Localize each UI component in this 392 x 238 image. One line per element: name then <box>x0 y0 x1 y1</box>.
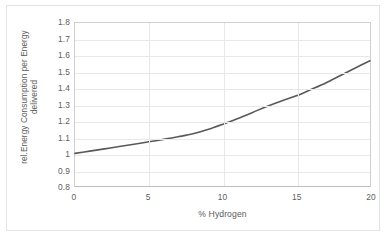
x-axis-tick-label: 5 <box>128 192 168 202</box>
gridline-horizontal <box>75 106 370 107</box>
gridline-vertical <box>224 23 225 186</box>
gridline-vertical <box>149 23 150 186</box>
x-axis-tick-labels: 05101520 <box>74 192 371 206</box>
y-axis-tick-label: 1.1 <box>24 133 70 143</box>
gridline-horizontal <box>75 56 370 57</box>
x-axis-tick-label: 10 <box>203 192 243 202</box>
y-axis-tick-label: 1.8 <box>24 17 70 27</box>
x-axis-title: % Hydrogen <box>74 209 371 219</box>
gridline-horizontal <box>75 172 370 173</box>
gridline-horizontal <box>75 139 370 140</box>
y-axis-tick-label: 1.2 <box>24 116 70 126</box>
y-axis-tick-label: 1 <box>24 149 70 159</box>
y-axis-tick-label: 1.7 <box>24 34 70 44</box>
chart-container: rel.Energy Consumption per Energy delive… <box>6 5 380 231</box>
y-axis-tick-label: 0.8 <box>24 182 70 192</box>
gridline-horizontal <box>75 40 370 41</box>
y-axis-tick-labels: 0.80.911.11.21.31.41.51.61.71.8 <box>22 22 70 187</box>
gridline-horizontal <box>75 89 370 90</box>
x-axis-tick-label: 15 <box>277 192 317 202</box>
y-axis-tick-label: 1.3 <box>24 100 70 110</box>
data-series-path <box>75 61 370 154</box>
x-axis-tick-label: 0 <box>54 192 94 202</box>
y-axis-tick-label: 1.6 <box>24 50 70 60</box>
y-axis-tick-label: 0.9 <box>24 166 70 176</box>
x-axis-tick-label: 20 <box>351 192 391 202</box>
y-axis-tick-label: 1.5 <box>24 67 70 77</box>
gridline-horizontal <box>75 122 370 123</box>
plot-area <box>74 22 371 187</box>
gridline-horizontal <box>75 73 370 74</box>
gridline-horizontal <box>75 155 370 156</box>
y-axis-tick-label: 1.4 <box>24 83 70 93</box>
series-line-rel-energy-consumption <box>75 23 370 186</box>
gridline-vertical <box>298 23 299 186</box>
